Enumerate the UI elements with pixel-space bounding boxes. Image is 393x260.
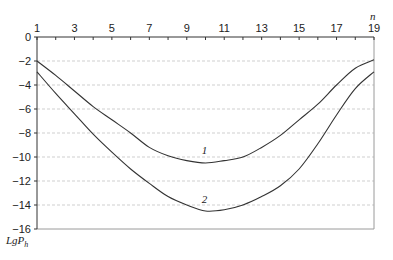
x-tick-label: 7	[146, 22, 152, 34]
y-axis-title-sub: h	[24, 240, 28, 249]
y-axis-title-main: LgP	[5, 234, 25, 246]
y-axis-title: LgPh	[5, 234, 28, 249]
y-tick-label: −2	[18, 55, 31, 67]
y-tick-label: −6	[18, 103, 31, 115]
x-tick-label: 11	[219, 22, 230, 34]
curve-labels: 12	[202, 144, 208, 205]
data-series	[37, 60, 374, 211]
x-axis: 135791113151719	[34, 22, 380, 40]
x-tick-label: 3	[71, 22, 77, 34]
y-axis: 0−2−4−6−8−10−12−14−16	[12, 31, 37, 235]
x-axis-title: n	[370, 10, 376, 22]
x-tick-label: 1	[34, 22, 40, 34]
x-tick-label: 17	[330, 22, 342, 34]
line-chart: 135791113151719 0−2−4−6−8−10−12−14−16 12…	[0, 0, 393, 260]
y-tick-label: −4	[18, 79, 31, 91]
grid-lines	[37, 61, 374, 205]
y-tick-label: −12	[12, 175, 31, 187]
y-tick-label: −14	[12, 199, 31, 211]
x-tick-label: 13	[256, 22, 268, 34]
series-2-line	[37, 72, 374, 211]
y-tick-label: 0	[25, 31, 31, 43]
x-tick-label: 9	[184, 22, 190, 34]
y-tick-label: −8	[18, 127, 31, 139]
y-tick-label: −10	[12, 151, 31, 163]
x-tick-label: 15	[293, 22, 305, 34]
x-tick-label: 5	[109, 22, 115, 34]
curve-label-1: 1	[202, 144, 208, 156]
curve-label-2: 2	[202, 193, 208, 205]
x-tick-label: 19	[368, 22, 380, 34]
